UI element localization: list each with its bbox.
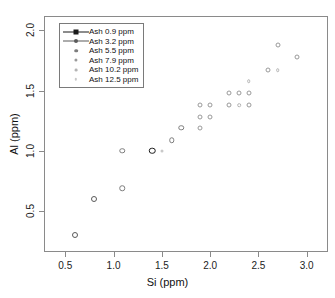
legend-marker xyxy=(63,27,89,36)
legend-symbol xyxy=(75,78,77,80)
legend-item: Ash 5.5 ppm xyxy=(63,46,138,56)
legend-box: Ash 0.9 ppmAsh 3.2 ppmAsh 5.5 ppmAsh 7.9… xyxy=(59,23,144,88)
x-tick-label: 1.0 xyxy=(107,260,121,271)
y-axis-label: Al (ppm) xyxy=(8,113,20,155)
legend-label: Ash 12.5 ppm xyxy=(89,75,138,84)
x-axis-label: Si (ppm) xyxy=(0,276,335,288)
x-tick-label: 2.0 xyxy=(203,260,217,271)
y-tick-label: 2.0 xyxy=(25,23,36,37)
legend-marker xyxy=(63,46,89,55)
legend-item: Ash 0.9 ppm xyxy=(63,27,138,37)
legend-label: Ash 3.2 ppm xyxy=(89,37,134,46)
legend-marker xyxy=(63,56,89,65)
x-tick-mark xyxy=(162,252,163,257)
legend-label: Ash 0.9 ppm xyxy=(89,27,134,36)
legend-label: Ash 5.5 ppm xyxy=(89,46,134,55)
y-tick-mark xyxy=(39,211,44,212)
x-tick-mark xyxy=(65,252,66,257)
y-tick-label: 1.0 xyxy=(25,144,36,158)
legend-label: Ash 10.2 ppm xyxy=(89,65,138,74)
legend-marker xyxy=(63,37,89,46)
x-tick-label: 0.5 xyxy=(58,260,72,271)
x-tick-mark xyxy=(114,252,115,257)
y-tick-mark xyxy=(39,91,44,92)
legend-item: Ash 3.2 ppm xyxy=(63,37,138,47)
legend-item: Ash 7.9 ppm xyxy=(63,56,138,66)
y-tick-mark xyxy=(39,30,44,31)
x-tick-label: 2.5 xyxy=(251,260,265,271)
legend-marker xyxy=(63,65,89,74)
y-tick-label: 1.5 xyxy=(25,84,36,98)
scatter-plot-figure: 0.51.01.52.02.53.0 0.51.01.52.0 Si (ppm)… xyxy=(0,0,335,298)
legend-label: Ash 7.9 ppm xyxy=(89,56,134,65)
legend-item: Ash 12.5 ppm xyxy=(63,75,138,85)
x-tick-mark xyxy=(307,252,308,257)
legend-symbol xyxy=(74,59,77,62)
legend-marker xyxy=(63,75,89,84)
x-tick-mark xyxy=(258,252,259,257)
y-tick-mark xyxy=(39,151,44,152)
legend-symbol xyxy=(74,49,78,53)
legend-item: Ash 10.2 ppm xyxy=(63,65,138,75)
x-tick-mark xyxy=(210,252,211,257)
legend-symbol xyxy=(75,68,78,71)
legend-symbol xyxy=(74,39,78,43)
x-tick-label: 1.5 xyxy=(155,260,169,271)
legend-symbol xyxy=(74,29,79,34)
y-tick-label: 0.5 xyxy=(25,204,36,218)
x-tick-label: 3.0 xyxy=(300,260,314,271)
